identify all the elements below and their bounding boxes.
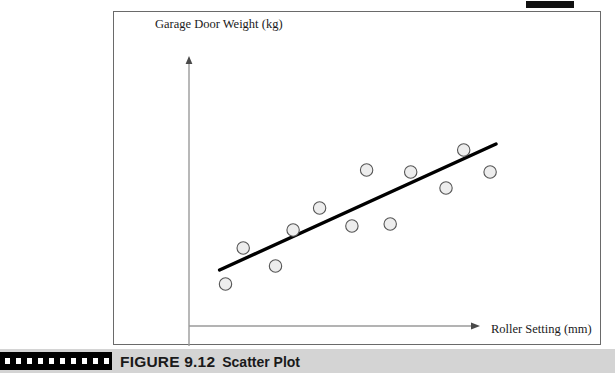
data-point [440, 182, 452, 194]
data-point [346, 220, 358, 232]
data-point [287, 224, 299, 236]
figure-page: Garage Door Weight (kg) Roller Setting (… [0, 0, 615, 377]
data-point [219, 278, 231, 290]
scatter-plot-canvas [114, 12, 602, 346]
data-point [360, 164, 372, 176]
x-axis-label: Roller Setting (mm) [491, 322, 592, 337]
caption-decoration-icon [0, 352, 112, 370]
data-point [484, 166, 496, 178]
figure-title: Scatter Plot [222, 354, 300, 370]
data-points [219, 144, 496, 290]
x-axis [189, 323, 480, 330]
data-point [269, 260, 281, 272]
data-point [458, 144, 470, 156]
figure-caption: FIGURE 9.12 Scatter Plot [120, 351, 300, 372]
data-point [313, 202, 325, 214]
scatter-plot: Garage Door Weight (kg) Roller Setting (… [114, 12, 602, 346]
trend-line [220, 144, 496, 270]
page-tab-marker-icon [526, 1, 574, 8]
y-axis [186, 56, 193, 346]
y-axis-label: Garage Door Weight (kg) [155, 17, 283, 32]
figure-number: FIGURE 9.12 [120, 353, 215, 371]
data-point [405, 166, 417, 178]
figure-frame: Garage Door Weight (kg) Roller Setting (… [113, 11, 601, 345]
data-point [237, 242, 249, 254]
data-point [384, 218, 396, 230]
